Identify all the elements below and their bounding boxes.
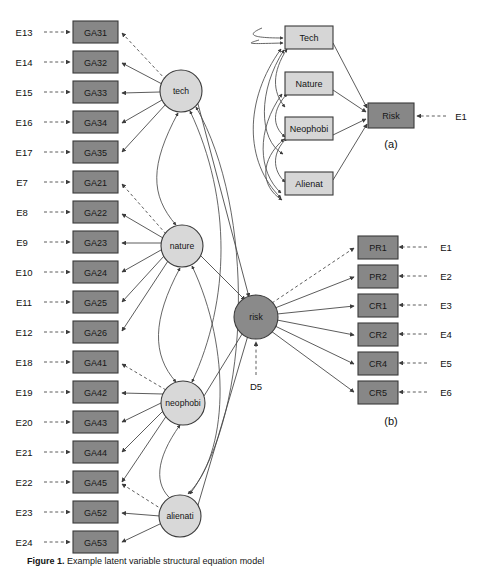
error-label: E12 [16, 327, 33, 338]
figure-caption-prefix: Figure 1. [27, 556, 65, 566]
panel-a-outcome-label: Risk [382, 111, 400, 121]
path-diagram: GA31 GA32 GA33 GA34 GA35 GA21 GA22 GA23 … [0, 0, 484, 571]
panel-b-indicator-label: CR5 [369, 388, 387, 398]
indicator-label: GA31 [84, 28, 107, 38]
panel-b-error-label: E5 [440, 358, 452, 369]
error-label: E7 [16, 177, 28, 188]
indicator-label: GA42 [84, 388, 107, 398]
main-error-arrows [44, 32, 70, 542]
loading-arrows-nature [122, 184, 168, 331]
panel-a-predictor-boxes [285, 26, 333, 195]
panel-a-label: (a) [384, 138, 397, 150]
main-error-labels: E13 E14 E15 E16 E17 E7 E8 E9 E10 E11 E12… [16, 27, 33, 548]
error-label: E24 [16, 537, 33, 548]
panel-a-predictor-label: Tech [299, 33, 318, 43]
error-label: E9 [16, 237, 28, 248]
panel-a-outcome-error-label: E1 [455, 111, 467, 122]
factor-covariance-curves [157, 107, 239, 500]
panel-b-indicator-label: CR1 [369, 301, 387, 311]
error-label: E17 [16, 147, 33, 158]
panel-b-error-label: E2 [440, 271, 452, 282]
panel-b-error-labels: E1 E2 E3 E4 E5 E6 [440, 242, 452, 398]
risk-to-indicator-arrows [271, 248, 354, 392]
indicator-label: GA21 [84, 178, 107, 188]
panel-b-error-label: E6 [440, 387, 452, 398]
panel-b-indicator-label: PR1 [369, 243, 387, 253]
latent-nodes [159, 70, 278, 537]
indicator-label: GA52 [84, 508, 107, 518]
indicator-label: GA32 [84, 58, 107, 68]
panel-a-predictor-labels: Tech Nature Neophobi Alienat [290, 33, 329, 189]
indicator-label: GA25 [84, 298, 107, 308]
error-label: E21 [16, 447, 33, 458]
loading-arrows-tech [122, 33, 166, 152]
error-label: E13 [16, 27, 33, 38]
panel-a-predictor-label: Neophobi [290, 124, 329, 134]
loading-arrows-alienati [122, 484, 163, 542]
indicator-label: GA34 [84, 118, 107, 128]
error-label: E10 [16, 267, 33, 278]
indicator-label: GA35 [84, 148, 107, 158]
indicator-label: GA45 [84, 478, 107, 488]
main-indicator-boxes [73, 21, 118, 553]
latent-label-alienati: alienati [166, 511, 193, 521]
figure-container: GA31 GA32 GA33 GA34 GA35 GA21 GA22 GA23 … [0, 0, 484, 571]
error-label: E18 [16, 357, 33, 368]
indicator-label: GA44 [84, 448, 107, 458]
panel-b-indicator-label: PR2 [369, 272, 387, 282]
error-label: E8 [16, 207, 28, 218]
panel-b-error-label: E3 [440, 300, 452, 311]
error-label: E11 [16, 297, 32, 308]
error-label: E15 [16, 87, 33, 98]
panel-b-error-label: E4 [440, 329, 452, 340]
disturbance-label: D5 [250, 381, 262, 392]
error-label: E19 [16, 387, 33, 398]
indicator-label: GA43 [84, 418, 107, 428]
indicator-label: GA33 [84, 88, 107, 98]
indicator-label: GA53 [84, 538, 107, 548]
panel-b-error-arrows [399, 247, 427, 392]
latent-label-neophobi: neophobi [165, 398, 200, 408]
figure-caption-text: Example latent variable structural equat… [67, 556, 264, 566]
indicator-label: GA22 [84, 208, 107, 218]
panel-a-covariance-curves [251, 28, 287, 200]
figure-caption: Figure 1. Example latent variable struct… [27, 556, 467, 567]
error-label: E22 [16, 477, 33, 488]
error-label: E16 [16, 117, 33, 128]
latent-label-risk: risk [249, 312, 263, 322]
panel-a-predictor-label: Nature [295, 79, 322, 89]
error-label: E20 [16, 417, 33, 428]
panel-a-predictor-label: Alienat [295, 179, 323, 189]
panel-a-structural-paths [333, 43, 367, 180]
panel-b-label: (b) [384, 415, 397, 427]
indicator-label: GA26 [84, 328, 107, 338]
panel-b-indicator-label: CR2 [369, 330, 387, 340]
latent-label-nature: nature [170, 241, 195, 251]
indicator-label: GA24 [84, 268, 107, 278]
latent-label-tech: tech [173, 86, 189, 96]
main-indicator-labels: GA31 GA32 GA33 GA34 GA35 GA21 GA22 GA23 … [84, 28, 107, 548]
indicator-label: GA41 [84, 358, 107, 368]
indicator-label: GA23 [84, 238, 107, 248]
error-label: E14 [16, 57, 33, 68]
panel-b-indicator-boxes [358, 236, 398, 404]
error-label: E23 [16, 507, 33, 518]
panel-b-indicator-label: CR4 [369, 359, 387, 369]
panel-b-error-label: E1 [440, 242, 452, 253]
